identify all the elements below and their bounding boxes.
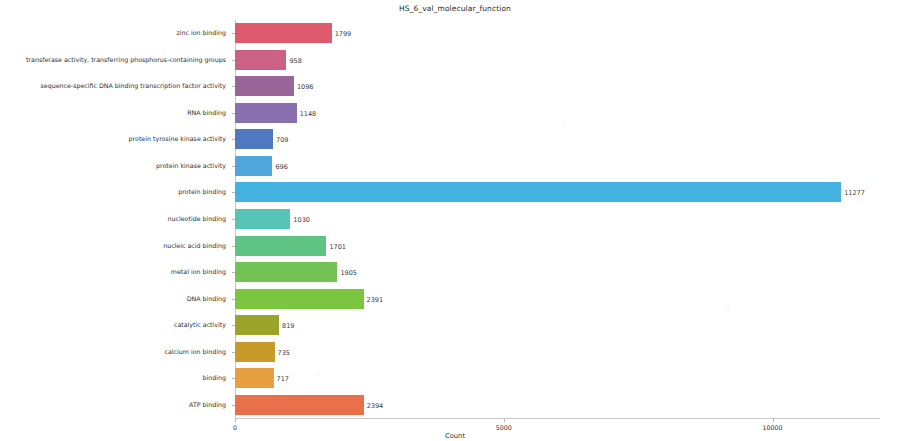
bar[interactable]	[235, 315, 279, 335]
bar[interactable]	[235, 76, 294, 96]
bar-value-label: 1905	[340, 269, 357, 277]
bar-value-label: 958	[289, 57, 301, 65]
y-axis-tick-label: protein tyrosine kinase activity	[129, 135, 226, 143]
y-axis-tick-label: calcium ion binding	[165, 348, 226, 356]
bar-row: 717	[235, 365, 880, 392]
y-axis-tick-label: binding	[203, 374, 226, 382]
bar[interactable]	[235, 209, 290, 229]
bar-value-label: 1096	[297, 83, 314, 91]
bar[interactable]	[235, 50, 286, 70]
bar-value-label: 709	[276, 136, 288, 144]
bar-value-label: 696	[275, 163, 287, 171]
x-axis-tick-mark	[504, 419, 505, 422]
bar[interactable]	[235, 103, 297, 123]
y-axis-tick-label: nucleotide binding	[168, 215, 226, 223]
x-axis-tick-label: 5000	[496, 424, 512, 431]
bar[interactable]	[235, 395, 364, 415]
bar[interactable]	[235, 23, 332, 43]
bar-value-label: 819	[282, 322, 294, 330]
bar-row: 709	[235, 126, 880, 153]
x-axis-label: Count	[0, 432, 910, 440]
y-axis-tick-label: ATP binding	[189, 401, 226, 409]
x-axis-tick-mark	[773, 419, 774, 422]
bar[interactable]	[235, 342, 275, 362]
chart-title: HS_6_val_molecular_function	[0, 4, 910, 13]
bar-row: 1701	[235, 232, 880, 259]
y-axis-tick-label: protein kinase activity	[156, 162, 226, 170]
bar-value-label: 1148	[300, 110, 317, 118]
bar-row: 1030	[235, 206, 880, 233]
y-axis-tick-label: catalytic activity	[174, 321, 226, 329]
bar-value-label: 717	[277, 375, 289, 383]
bar-value-label: 1799	[335, 30, 352, 38]
x-axis-tick-label: 10000	[762, 424, 782, 431]
x-axis-line	[235, 418, 880, 419]
bar[interactable]	[235, 156, 272, 176]
y-axis-tick-label: metal ion binding	[171, 268, 226, 276]
bar-row: 819	[235, 312, 880, 339]
y-axis-tick-label: RNA binding	[187, 109, 226, 117]
bar-value-label: 1701	[329, 243, 346, 251]
bar-value-label: 735	[278, 349, 290, 357]
bar-row: 958	[235, 47, 880, 74]
bar-row: 1148	[235, 100, 880, 127]
bar[interactable]	[235, 262, 337, 282]
y-axis-tick-label: zinc ion binding	[176, 29, 226, 37]
bar-row: 1799	[235, 20, 880, 47]
x-axis-tick-mark	[235, 419, 236, 422]
bar-row: 2391	[235, 285, 880, 312]
bar-value-label: 1030	[293, 216, 310, 224]
y-axis-tick-label: sequence-specific DNA binding transcript…	[41, 82, 226, 90]
bar-row: 696	[235, 153, 880, 180]
bar-value-label: 2394	[367, 402, 384, 410]
y-axis-tick-label: transferase activity, transferring phosp…	[26, 56, 226, 64]
bar-value-label: 2391	[367, 296, 384, 304]
bar-row: 1096	[235, 73, 880, 100]
y-axis-tick-label: nucleic acid binding	[163, 242, 226, 250]
bar-row: 1905	[235, 259, 880, 286]
bar-row: 11277	[235, 179, 880, 206]
bar-row: 735	[235, 338, 880, 365]
bar[interactable]	[235, 289, 364, 309]
bar[interactable]	[235, 182, 841, 202]
bar[interactable]	[235, 236, 326, 256]
y-axis-tick-label: DNA binding	[187, 295, 226, 303]
x-axis-tick-label: 0	[233, 424, 237, 431]
chart-figure: HS_6_val_molecular_function Function zin…	[0, 0, 910, 441]
y-axis-tick-label: protein binding	[178, 188, 226, 196]
bar[interactable]	[235, 129, 273, 149]
bar-value-label: 11277	[844, 189, 865, 197]
bar[interactable]	[235, 368, 274, 388]
bar-row: 2394	[235, 391, 880, 418]
